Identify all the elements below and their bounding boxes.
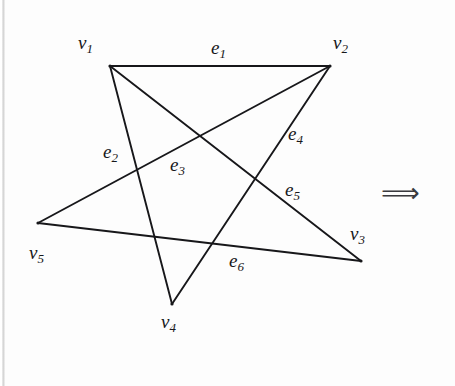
graph-edge-e2: [110, 66, 172, 304]
vertex-label-v4: v4: [161, 312, 176, 331]
edge-label-e3: e3: [170, 155, 185, 174]
graph-vertex-v5: [36, 221, 39, 224]
graph-figure: v1 v2 v3 v4 v5 e1 e2 e3 e4 e5 e6 ⟹: [0, 0, 455, 386]
edge-label-e6-subscript: 6: [237, 259, 244, 274]
graph-vertex-v4: [170, 302, 173, 305]
vertex-label-v1-subscript: 1: [86, 41, 93, 56]
edge-label-e5: e5: [285, 180, 300, 199]
graph-vertex-v3: [359, 259, 362, 262]
graph-vertex-v2: [328, 64, 331, 67]
graph-edge-e6: [38, 223, 361, 261]
vertex-label-v2: v2: [333, 33, 348, 52]
vertex-label-v1: v1: [78, 33, 93, 52]
vertex-label-v3-subscript: 3: [358, 232, 365, 247]
vertex-label-v3: v3: [350, 224, 365, 243]
graph-vertex-v1: [108, 64, 111, 67]
edge-label-e4: e4: [288, 124, 303, 143]
vertex-label-v5-subscript: 5: [37, 251, 44, 266]
edge-label-e3-subscript: 3: [178, 163, 185, 178]
vertex-label-v5: v5: [29, 243, 44, 262]
edge-label-e4-subscript: 4: [296, 132, 303, 147]
edge-label-e2-subscript: 2: [111, 150, 118, 165]
vertex-label-v2-subscript: 2: [341, 41, 348, 56]
edge-label-e5-subscript: 5: [293, 188, 300, 203]
vertex-label-v4-subscript: 4: [169, 320, 176, 335]
edge-label-e2: e2: [103, 142, 118, 161]
edge-label-e6: e6: [229, 251, 244, 270]
edge-label-e1: e1: [211, 38, 226, 57]
graph-edge-e4: [172, 66, 330, 304]
implies-arrow-icon: ⟹: [381, 179, 420, 206]
edge-label-e1-subscript: 1: [219, 46, 226, 61]
